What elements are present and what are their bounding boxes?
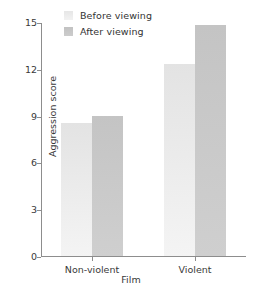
y-tick-label-15: 15: [25, 18, 37, 28]
legend-swatch-before-icon: [64, 11, 73, 20]
y-tick-label-3: 3: [31, 205, 37, 215]
y-tick-label-9: 9: [31, 112, 37, 122]
bar-chart: Before viewing After viewing 03691215 No…: [0, 0, 262, 294]
x-tick-1: [195, 257, 196, 261]
y-tick-label-0: 0: [31, 252, 37, 262]
plot-area: 03691215 Non-violentViolent Aggression s…: [41, 23, 246, 257]
y-tick-9: [37, 117, 41, 118]
y-tick-3: [37, 210, 41, 211]
x-axis-line: [41, 256, 246, 257]
bar-violent-before-viewing: [164, 64, 195, 256]
x-axis-title: Film: [0, 274, 262, 285]
y-axis-title: Aggression score: [47, 57, 58, 177]
y-tick-0: [37, 257, 41, 258]
bar-violent-after-viewing: [195, 25, 226, 256]
legend-item-before: Before viewing: [64, 8, 184, 22]
legend-label-before: Before viewing: [80, 10, 152, 21]
y-tick-label-6: 6: [31, 158, 37, 168]
y-tick-15: [37, 23, 41, 24]
y-axis-line: [41, 23, 42, 257]
y-tick-label-12: 12: [25, 65, 37, 75]
y-tick-6: [37, 163, 41, 164]
y-tick-12: [37, 70, 41, 71]
bar-non-violent-before-viewing: [61, 123, 92, 256]
x-tick-0: [92, 257, 93, 261]
bar-non-violent-after-viewing: [92, 116, 123, 256]
